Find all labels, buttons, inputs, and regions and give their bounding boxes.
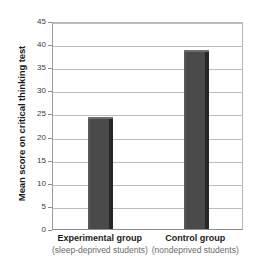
x-axis-category-sublabel: (sleep-deprived students) (52, 244, 148, 257)
y-tick-label: 35 (0, 64, 46, 72)
y-tick-label: 25 (0, 110, 46, 118)
y-tick-label: 30 (0, 87, 46, 95)
y-tick-mark (48, 68, 52, 69)
y-tick-label: 5 (0, 203, 46, 211)
x-axis-group-label: Experimental group(sleep-deprived studen… (52, 232, 148, 257)
x-axis-category-name: Experimental group (52, 232, 148, 244)
y-tick-mark (48, 22, 52, 23)
y-tick-mark (48, 230, 52, 231)
y-tick-mark (48, 114, 52, 115)
y-tick-mark (48, 184, 52, 185)
y-tick-label: 10 (0, 180, 46, 188)
y-tick-mark (48, 161, 52, 162)
y-tick-mark (48, 45, 52, 46)
y-tick-mark (48, 91, 52, 92)
x-axis-category-sublabel: (nondeprived students) (148, 244, 244, 257)
y-axis-ticks: 051015202530354045 (0, 22, 258, 230)
x-axis-labels: Experimental group(sleep-deprived studen… (52, 232, 243, 265)
y-tick-label: 45 (0, 18, 46, 26)
y-tick-label: 0 (0, 226, 46, 234)
y-tick-mark (48, 138, 52, 139)
x-axis-category-name: Control group (148, 232, 244, 244)
y-tick-mark (48, 207, 52, 208)
y-tick-label: 20 (0, 134, 46, 142)
bar-chart: Mean score on critical thinking test 051… (0, 0, 258, 265)
y-tick-label: 40 (0, 41, 46, 49)
x-axis-group-label: Control group(nondeprived students) (148, 232, 244, 257)
y-tick-label: 15 (0, 157, 46, 165)
